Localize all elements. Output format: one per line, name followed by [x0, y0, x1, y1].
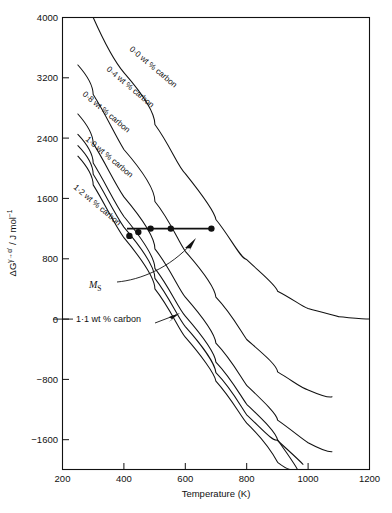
x-tick-label-1200: 1200 [359, 473, 380, 484]
ms-data-point [168, 225, 174, 231]
y-tick-label-2400: 2400 [37, 133, 58, 144]
curve-1.0-wt-carbon [78, 134, 303, 464]
x-tick-label-1000: 1000 [298, 473, 319, 484]
y-tick-label-minus1600: −1600 [31, 434, 58, 445]
curve-label-0.0: 0·0 wt % carbon [128, 45, 179, 90]
ms-annotation: MS [88, 238, 196, 293]
y-tick-label-800: 800 [42, 253, 58, 264]
carbon-1.1-label: 1·1 wt % carbon [76, 314, 141, 324]
y-tick-label-minus800: −800 [37, 374, 58, 385]
y-axis-ticks [63, 18, 70, 440]
ms-data-point [135, 229, 141, 235]
x-tick-label-800: 800 [239, 473, 255, 484]
curve-label-1.0: 1·0 wt % carbon [84, 135, 135, 180]
carbon-1.1-arrow-head [169, 313, 181, 322]
y-tick-label-3200: 3200 [37, 72, 58, 83]
plot-frame [63, 18, 370, 470]
chart-figure: 4000 3200 2400 1600 800 0 −800 −1600 200… [0, 0, 392, 513]
x-tick-label-600: 600 [177, 473, 193, 484]
chart-svg: 4000 3200 2400 1600 800 0 −800 −1600 200… [0, 0, 392, 513]
y-tick-label-4000: 4000 [37, 12, 58, 23]
y-axis-title-units-exponent: −1 [6, 209, 13, 217]
carbon-1.1-annotation: 1·1 wt % carbon [53, 313, 180, 324]
y-axis-title: ΔGγ→α' / J mol−1 [6, 209, 18, 276]
x-axis-title: Temperature (K) [182, 488, 251, 499]
y-axis-title-delta: ΔG [7, 263, 18, 277]
ms-label: MS [88, 279, 102, 293]
x-tick-label-200: 200 [55, 473, 71, 484]
x-axis-ticks [63, 463, 370, 470]
curve-label-0.4: 0·4 wt % carbon [105, 65, 156, 110]
curve-0.0-wt-carbon [93, 18, 369, 320]
ms-data-point [208, 225, 214, 231]
x-tick-label-400: 400 [116, 473, 132, 484]
svg-text:ΔGγ→α' / J mol−1: ΔGγ→α' / J mol−1 [6, 209, 18, 276]
ms-data-point [126, 233, 132, 239]
ms-data-point [147, 225, 153, 231]
curve-label-1.2: 1·2 wt % carbon [72, 183, 123, 228]
y-tick-label-1600: 1600 [37, 193, 58, 204]
y-axis-title-superscript: γ→α' [6, 248, 14, 263]
ms-arrow-head [185, 238, 196, 254]
y-axis-title-units: / J mol [7, 217, 18, 248]
